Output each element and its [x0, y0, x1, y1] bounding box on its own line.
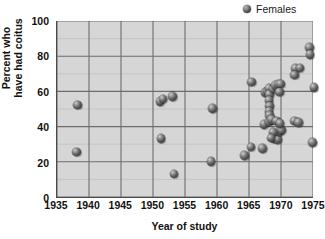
y-axis-tick-label: 100: [21, 16, 49, 27]
data-point: [247, 78, 256, 87]
data-point: [294, 118, 303, 127]
data-point: [276, 80, 285, 89]
data-point: [290, 71, 299, 80]
x-axis-tick-label: 1960: [205, 200, 228, 211]
data-point: [73, 101, 82, 110]
x-axis-tick-label: 1965: [237, 200, 260, 211]
y-axis-title: Percent who have had coitus: [0, 0, 24, 122]
x-axis-tick-label: 1935: [44, 200, 67, 211]
data-point: [207, 157, 216, 166]
x-axis-tick-label: 1945: [109, 200, 132, 211]
y-axis-tick-label: 20: [21, 157, 49, 168]
data-point: [170, 170, 179, 179]
data-point: [208, 104, 217, 113]
scatter-chart-figure: Females 020406080100 Percent who have ha…: [0, 0, 325, 239]
data-point: [310, 83, 319, 92]
data-point: [275, 88, 284, 97]
x-axis-title: Year of study: [56, 221, 313, 232]
data-point: [276, 119, 285, 128]
legend-label-females: Females: [256, 4, 296, 15]
data-points-layer: [57, 21, 313, 197]
data-point: [308, 138, 317, 147]
x-axis-tick-label: 1950: [141, 200, 164, 211]
data-point: [72, 148, 81, 157]
data-point: [258, 144, 267, 153]
x-axis-tick-label: 1940: [76, 200, 99, 211]
y-axis-tick-label: 60: [21, 87, 49, 98]
data-point: [240, 151, 249, 160]
data-point: [247, 143, 256, 152]
data-point: [157, 134, 166, 143]
data-point: [159, 95, 168, 104]
x-axis-tick-label: 1975: [301, 200, 324, 211]
x-axis-tick-label: 1970: [269, 200, 292, 211]
data-point: [168, 92, 177, 101]
plot-area: [56, 21, 313, 198]
y-axis-tick-label: 80: [21, 51, 49, 62]
chart-legend: Females: [243, 2, 296, 16]
data-point: [306, 50, 315, 59]
x-axis-tick-labels: 193519401945195019551960196519701975: [56, 200, 313, 214]
data-point: [296, 64, 305, 73]
legend-marker-icon: [243, 5, 251, 13]
y-axis-tick-label: 40: [21, 122, 49, 133]
x-axis-tick-label: 1955: [173, 200, 196, 211]
